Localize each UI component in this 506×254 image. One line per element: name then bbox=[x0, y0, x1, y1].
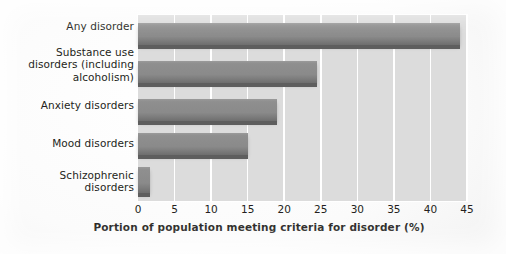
gridline-45 bbox=[466, 15, 468, 201]
x-tick-15: 15 bbox=[241, 203, 254, 215]
category-label-anxiety: Anxiety disorders bbox=[6, 99, 134, 111]
bar bbox=[138, 23, 460, 45]
x-tick-20: 20 bbox=[278, 203, 291, 215]
x-axis-title: Portion of population meeting criteria f… bbox=[0, 221, 506, 233]
bar-row bbox=[138, 99, 277, 121]
category-label-any-disorder: Any disorder bbox=[6, 20, 134, 32]
bar-row bbox=[138, 61, 317, 83]
x-axis-tick-labels: 051015202530354045 bbox=[138, 203, 467, 219]
x-tick-30: 30 bbox=[351, 203, 364, 215]
bar bbox=[138, 167, 150, 193]
category-label-schizophrenic: Schizophrenicdisorders bbox=[6, 169, 134, 194]
category-label-line: Mood disorders bbox=[6, 137, 134, 149]
x-tick-45: 45 bbox=[460, 203, 473, 215]
x-tick-5: 5 bbox=[171, 203, 178, 215]
category-label-line: Anxiety disorders bbox=[6, 99, 134, 111]
bar-row bbox=[138, 23, 460, 45]
category-label-line: disorders (including bbox=[6, 58, 134, 70]
category-label-line: Any disorder bbox=[6, 20, 134, 32]
category-label-mood: Mood disorders bbox=[6, 137, 134, 149]
x-axis-title-text: Portion of population meeting criteria f… bbox=[93, 221, 424, 233]
chart-figure: Any disorder Substance usedisorders (inc… bbox=[0, 0, 506, 254]
category-label-line: alcoholism) bbox=[6, 71, 134, 83]
bar-row bbox=[138, 133, 248, 155]
bar bbox=[138, 61, 317, 83]
category-label-line: Schizophrenic bbox=[6, 169, 134, 181]
category-label-substance-use: Substance usedisorders (includingalcohol… bbox=[6, 46, 134, 83]
category-label-line: Substance use bbox=[6, 46, 134, 58]
x-tick-0: 0 bbox=[135, 203, 142, 215]
category-label-column: Any disorder Substance usedisorders (inc… bbox=[6, 14, 134, 200]
x-tick-40: 40 bbox=[424, 203, 437, 215]
bar bbox=[138, 133, 248, 155]
x-tick-10: 10 bbox=[204, 203, 217, 215]
bar bbox=[138, 99, 277, 121]
plot-area bbox=[138, 14, 468, 202]
category-label-line: disorders bbox=[6, 181, 134, 193]
bar-row bbox=[138, 167, 150, 189]
x-tick-25: 25 bbox=[314, 203, 327, 215]
x-tick-35: 35 bbox=[387, 203, 400, 215]
